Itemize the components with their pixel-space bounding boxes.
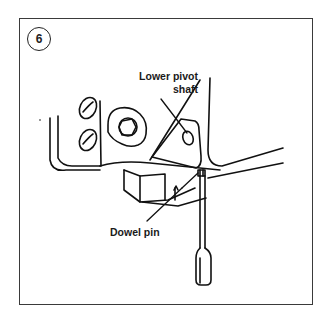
screwdriver bbox=[196, 176, 211, 285]
base-block bbox=[124, 170, 206, 206]
callout-lower-pivot-shaft: Lower pivot shaft bbox=[110, 70, 198, 96]
mechanical-drawing bbox=[0, 0, 330, 322]
callout-dowel-pin: Dowel pin bbox=[110, 226, 160, 239]
adjustment-knob bbox=[108, 108, 146, 147]
lower-pivot-shaft bbox=[181, 130, 195, 147]
instruction-figure: 6 bbox=[0, 0, 330, 322]
screw-heads bbox=[76, 95, 100, 154]
callout-lower-pivot-shaft-line1: Lower pivot bbox=[110, 70, 198, 83]
callout-lower-pivot-shaft-line2: shaft bbox=[110, 83, 198, 96]
dowel-pin bbox=[198, 170, 205, 176]
